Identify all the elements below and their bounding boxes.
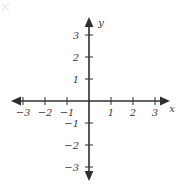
x-axis-group: −3 −2 −1 1 2 3 x <box>11 97 175 118</box>
x-tick-label--2: −2 <box>38 107 53 118</box>
coordinate-plane-canvas: −3 −2 −1 1 2 3 x 3 <box>0 0 181 187</box>
y-axis-arrow-up <box>85 17 94 27</box>
coordinate-plane-figure: −3 −2 −1 1 2 3 x 3 <box>0 0 181 187</box>
y-tick-label--2: −2 <box>64 140 79 151</box>
x-tick-label--3: −3 <box>16 107 31 118</box>
y-tick-label-3: 3 <box>73 30 79 41</box>
y-axis-label: y <box>97 17 104 28</box>
x-tick-label-2: 2 <box>129 107 136 118</box>
x-tick-label-3: 3 <box>152 107 158 118</box>
y-tick-label-2: 2 <box>72 52 79 63</box>
y-axis-arrow-down <box>85 171 94 181</box>
y-tick-label-1: 1 <box>73 74 79 85</box>
x-axis-tick-labels: −3 −2 −1 1 2 3 <box>16 107 159 118</box>
y-tick-label--3: −3 <box>64 162 79 173</box>
x-axis-arrow-left <box>11 97 21 106</box>
y-axis-group: 3 2 1 −1 −2 −3 y <box>64 17 104 181</box>
x-tick-label-1: 1 <box>108 107 114 118</box>
x-tick-label--1: −1 <box>60 107 75 118</box>
x-axis-label: x <box>169 103 175 114</box>
y-tick-label--1: −1 <box>64 118 79 129</box>
